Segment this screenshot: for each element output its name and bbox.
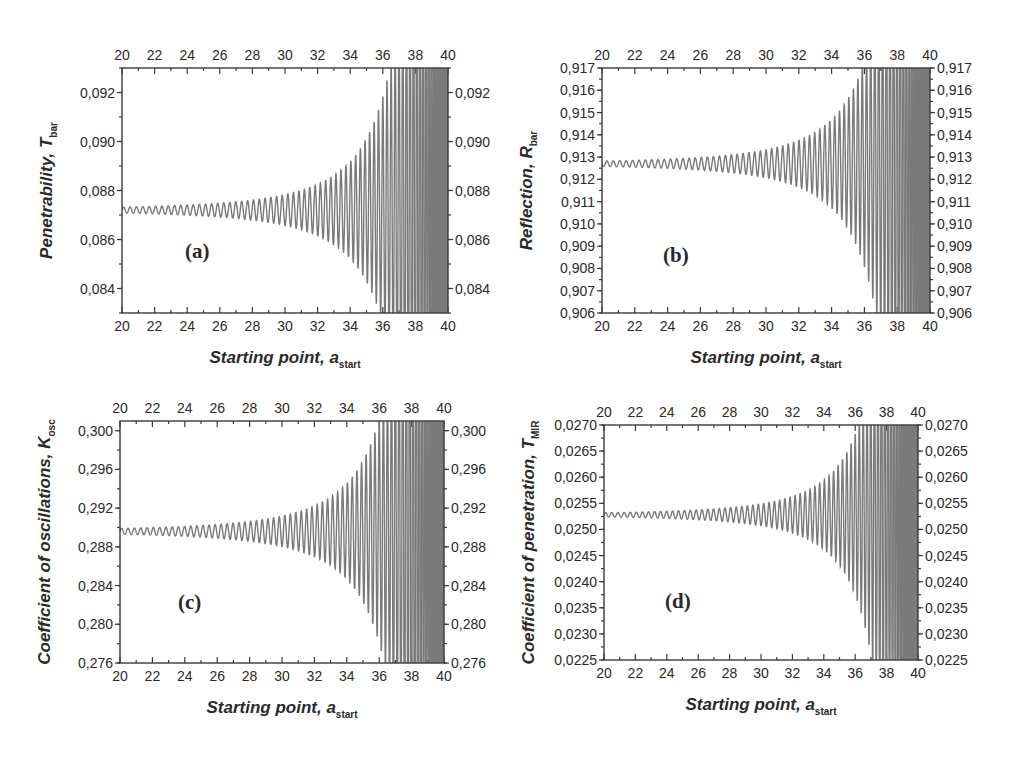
y-tick-label-right: 0,276 (451, 655, 486, 671)
x-tick-label: 36 (375, 318, 391, 334)
y-tick-label-right: 0,0265 (925, 443, 968, 459)
x-tick-label-top: 36 (371, 400, 387, 416)
x-tick-label-top: 36 (847, 404, 863, 420)
y-tick-label-right: 0,300 (451, 423, 486, 439)
y-tick-label-right: 0,0230 (925, 626, 968, 642)
x-tick-label: 36 (371, 668, 387, 684)
x-tick-label-top: 40 (436, 400, 452, 416)
x-tick-label: 22 (627, 318, 643, 334)
x-tick-label: 20 (596, 665, 612, 681)
x-tick-label-top: 28 (245, 47, 261, 63)
y-tick-label-right: 0,280 (451, 616, 486, 632)
y-tick-label: 0,911 (561, 194, 595, 210)
y-tick-label-right: 0,292 (451, 500, 486, 516)
y-tick-label: 0,0260 (554, 469, 597, 485)
y-tick-label-right: 0,909 (937, 238, 972, 254)
y-tick-label: 0,276 (78, 655, 113, 671)
x-tick-label: 34 (816, 665, 832, 681)
x-tick-label: 20 (112, 668, 128, 684)
panel-d-label: (d) (665, 589, 691, 613)
panel-d-x-axis-title: Starting point, astart (685, 695, 837, 717)
x-tick-label-top: 30 (274, 400, 290, 416)
y-tick-label: 0,0230 (554, 626, 597, 642)
y-tick-label-right: 0,915 (937, 105, 972, 121)
x-tick-label-top: 24 (659, 404, 675, 420)
y-tick-label: 0,910 (560, 216, 595, 232)
y-tick-label: 0,0225 (554, 652, 597, 668)
x-tick-label-top: 28 (725, 47, 741, 63)
y-tick-label: 0,0255 (554, 495, 597, 511)
x-tick-label: 38 (408, 318, 424, 334)
panel-c-y-axis-title: Coefficient of oscillations, Kosc (35, 419, 57, 665)
x-tick-label: 28 (242, 668, 258, 684)
x-tick-label: 36 (847, 665, 863, 681)
x-tick-label-top: 26 (209, 400, 225, 416)
x-tick-label-top: 34 (824, 47, 840, 63)
x-tick-label-top: 26 (690, 404, 706, 420)
x-tick-label: 38 (889, 318, 905, 334)
y-tick-label-right: 0,090 (455, 134, 490, 150)
x-tick-label: 30 (277, 318, 293, 334)
x-tick-label-top: 26 (212, 47, 228, 63)
x-tick-label-top: 36 (857, 47, 873, 63)
y-tick-label-right: 0,916 (937, 82, 972, 98)
y-tick-label-right: 0,0240 (925, 574, 968, 590)
y-tick-label-right: 0,907 (937, 283, 972, 299)
y-tick-label: 0,0235 (554, 600, 597, 616)
x-tick-label-top: 22 (145, 400, 161, 416)
y-tick-label-right: 0,910 (937, 216, 972, 232)
x-tick-label: 34 (824, 318, 840, 334)
x-tick-label: 20 (114, 318, 130, 334)
y-tick-label: 0,090 (80, 134, 115, 150)
y-tick-label: 0,917 (560, 60, 595, 76)
x-tick-label-top: 36 (375, 47, 391, 63)
x-tick-label-top: 40 (440, 47, 456, 63)
y-tick-label: 0,280 (78, 616, 113, 632)
panel-d-curve (604, 420, 918, 664)
x-tick-label: 38 (879, 665, 895, 681)
y-tick-label-right: 0,0270 (925, 417, 968, 433)
y-tick-label: 0,0240 (554, 574, 597, 590)
x-tick-label-top: 40 (910, 404, 926, 420)
panel-a: 2020222224242626282830303232343436363838… (37, 47, 490, 370)
y-tick-label-right: 0,0235 (925, 600, 968, 616)
y-tick-label: 0,086 (80, 232, 115, 248)
y-tick-label: 0,300 (78, 423, 113, 439)
panel-a-x-axis-title: Starting point, astart (209, 348, 361, 370)
y-tick-label: 0,913 (560, 149, 595, 165)
panel-b-y-axis-title: Reflection, Rbar (517, 131, 539, 251)
y-tick-label-right: 0,917 (937, 60, 972, 76)
x-tick-label: 40 (910, 665, 926, 681)
x-tick-label: 20 (594, 318, 610, 334)
y-tick-label-right: 0,296 (451, 461, 486, 477)
x-tick-label-top: 24 (179, 47, 195, 63)
x-tick-label: 26 (693, 318, 709, 334)
x-tick-label-top: 32 (785, 404, 801, 420)
y-tick-label-right: 0,0245 (925, 548, 968, 564)
y-tick-label-right: 0,0260 (925, 469, 968, 485)
y-tick-label: 0,907 (560, 283, 595, 299)
x-tick-label-top: 32 (310, 47, 326, 63)
y-tick-label: 0,906 (560, 305, 595, 321)
y-tick-label-right: 0,284 (451, 578, 486, 594)
y-tick-label-right: 0,911 (937, 194, 971, 210)
x-tick-label: 32 (785, 665, 801, 681)
y-tick-label-right: 0,0255 (925, 495, 968, 511)
y-tick-label: 0,284 (78, 578, 113, 594)
y-tick-label: 0,0245 (554, 548, 597, 564)
y-tick-label: 0,915 (560, 105, 595, 121)
x-tick-label: 40 (436, 668, 452, 684)
x-tick-label: 24 (659, 665, 675, 681)
panel-b-x-axis-title: Starting point, astart (690, 348, 842, 370)
x-tick-label-top: 28 (242, 400, 258, 416)
panel-a-label: (a) (185, 239, 210, 263)
x-tick-label: 38 (404, 668, 420, 684)
y-tick-label: 0,288 (78, 539, 113, 555)
x-tick-label: 32 (307, 668, 323, 684)
panel-a-y-axis-title: Penetrability, Tbar (37, 122, 59, 259)
panel-c: 2020222224242626282830303232343436363838… (35, 400, 486, 720)
x-tick-label-top: 20 (114, 47, 130, 63)
x-tick-label: 26 (209, 668, 225, 684)
y-tick-label-right: 0,908 (937, 260, 972, 276)
panel-b: 2020222224242626282830303232343436363838… (517, 47, 972, 370)
